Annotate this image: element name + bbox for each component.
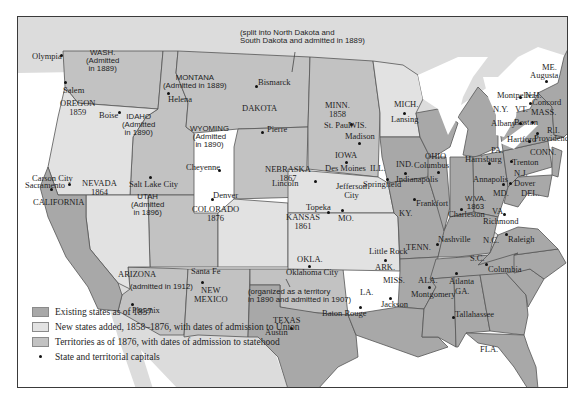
capital-dot [50,188,53,191]
capital-boston: Boston [514,118,538,127]
capital-dot [314,180,317,183]
capital-lansing: Lansing [391,115,418,124]
capital-lincoln: Lincoln [272,179,298,188]
dakota-annotation-line2: South Dakota and admitted in 1889) [240,37,365,45]
capital-baton-rouge: Baton Rouge [322,309,367,318]
montana-territory [176,51,310,133]
legend-label: Territories as of 1876, with dates of ad… [55,337,280,347]
capital-dot [64,81,67,84]
capital-dot [261,131,264,134]
capital-boise: Boise [99,111,118,120]
state-miss: MISS. [383,276,405,285]
map-legend: Existing states as of 1857 New states ad… [32,304,300,364]
legend-label: State and territorial capitals [55,352,160,362]
capital-dot-icon [32,355,49,358]
state-okla: OKLA. [297,255,323,264]
state-la: LA. [360,288,373,297]
capital-pierre: Pierre [267,125,287,134]
capital-st-paul: St. Paul [324,121,350,130]
state-montana: MONTANA(Admitted in 1889) [163,74,227,90]
capital-cheyenne: Cheyenne [186,163,220,172]
state-name: MEXICO [194,295,228,304]
capital-dot [519,96,522,99]
state-oregon: OREGON1859 [60,99,95,117]
state-note: (Admitted in 1889) [163,82,227,90]
capital-raleigh: Raleigh [508,235,534,244]
capital-santa-fe: Santa Fe [191,267,221,276]
capital-columbia: Columbia [488,265,522,274]
state-year: 1861 [286,222,320,231]
state-ill: ILL. [370,164,385,173]
legend-item-capitals: State and territorial capitals [32,349,300,364]
capital-albany: Albany [491,119,516,128]
state-year: 1859 [60,108,95,117]
capital-jackson: Jackson [381,300,408,309]
capital-olympia: Olympia [32,52,62,61]
legend-item-existing: Existing states as of 1857 [32,304,300,319]
state-ky: KY. [399,209,412,218]
capital-dot [201,281,204,284]
legend-swatch-territories [32,337,49,347]
legend-swatch-existing [32,307,49,317]
state-ny: N.Y. [493,105,508,114]
capital-dover: Dover [514,179,535,188]
state-wash: WASH.(Admittedin 1889) [86,49,119,74]
capital-richmond: Richmond [483,217,518,226]
capital-frankfort: Frankfort [416,199,448,208]
state-mich: MICH. [394,100,418,109]
capital-tallahassee: Tallahassee [455,310,494,319]
capital-oklahoma-city: Oklahoma City [286,268,338,277]
state-conn: CONN. [530,148,556,157]
state-year: 1876 [192,214,239,223]
capital-dot [255,85,258,88]
map-frame: (split into North Dakota and South Dakot… [17,16,568,388]
state-nc: N.C. [483,236,499,245]
state-tenn: TENN. [406,243,431,252]
state-colorado: COLORADO1876 [192,205,239,223]
state-note: in 1896) [131,209,164,217]
legend-swatch-new-states [32,322,49,332]
capital-harrisburg: Harrisburg [465,155,502,164]
state-ind: IND. [396,160,413,169]
capital-salem: Salem [63,86,84,95]
state-note: in 1889) [86,65,119,73]
state-mo: MO. [338,214,354,223]
state-idaho: IDAHO(Admittedin 1890) [122,113,155,138]
state-dakota: DAKOTA [242,104,277,113]
capital-dot [545,80,548,83]
state-md: MD. [493,189,509,198]
capital-dot [60,54,63,57]
state-minn: MINN.1858 [325,101,350,119]
capital-dot [502,183,505,186]
capital-dot [118,111,121,114]
capital-dot [327,211,330,214]
state-del: DEL. [521,189,540,198]
state-year: 1864 [82,188,117,197]
state-wyoming: WYOMING(Admittedin 1890) [190,125,229,150]
capital-dot [488,162,491,165]
state-note: in 1890) [190,141,229,149]
capital-dot [455,272,458,275]
capital-columbus: Columbus [414,161,449,170]
state-mass: MASS. [531,108,556,117]
state-nj: N.J. [514,169,528,178]
capital-dot [68,183,71,186]
capital-dot [519,122,522,125]
state-wis: WIS. [349,121,367,130]
capital-dot [528,140,531,143]
capital-trenton: Trenton [512,158,539,167]
capital-dot [536,132,539,135]
capital-sacramento: Sacramento [25,181,65,190]
florida-state [466,333,538,388]
capital-denver: Denver [213,191,238,200]
state-ga: GA. [455,287,469,296]
state-iowa: IOWA [335,151,357,160]
legend-item-territories: Territories as of 1876, with dates of ad… [32,334,300,349]
state-sc: S.C. [470,254,485,263]
capital-providence: Providence [534,134,568,143]
capital-concord: Concord [532,98,561,107]
capital-salt-lake-city: Salt Lake City [129,180,178,189]
capital-line: City [336,191,367,200]
state-note: in 1890) [122,129,155,137]
state-ark: ARK. [375,263,395,272]
